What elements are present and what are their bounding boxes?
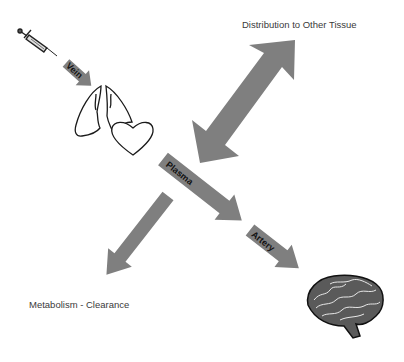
distribution-label: Distribution to Other Tissue bbox=[242, 19, 357, 30]
artery-arrow[interactable]: Artery bbox=[241, 219, 307, 279]
distribution-double-arrow[interactable] bbox=[192, 40, 295, 163]
vein-arrow: Vein bbox=[59, 56, 98, 94]
metabolism-arrow[interactable] bbox=[95, 187, 180, 284]
brain-icon bbox=[308, 275, 384, 338]
metabolism-label: Metabolism - Clearance bbox=[29, 299, 129, 310]
heart-icon bbox=[112, 122, 153, 155]
syringe-icon bbox=[18, 29, 57, 56]
